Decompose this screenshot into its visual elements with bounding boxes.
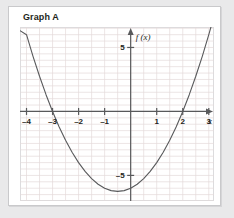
graph-card: Graph A –4–3–2–11235–5xf (x) — [8, 6, 221, 206]
y-tick-label: –5 — [116, 171, 125, 180]
plot-area: –4–3–2–11235–5xf (x) — [20, 27, 214, 201]
x-tick-label: 1 — [154, 117, 159, 126]
y-tick-label: 5 — [120, 43, 125, 52]
x-tick-label: –3 — [48, 117, 57, 126]
coordinate-plane-svg: –4–3–2–11235–5xf (x) — [20, 27, 214, 201]
page-title: Graph A — [23, 12, 59, 22]
x-tick-label: –1 — [100, 117, 109, 126]
y-axis-label: f (x) — [136, 32, 151, 42]
x-axis-label: x — [207, 116, 212, 126]
x-tick-label: –2 — [74, 117, 83, 126]
x-tick-label: –4 — [22, 117, 31, 126]
x-tick-label: 2 — [181, 117, 186, 126]
